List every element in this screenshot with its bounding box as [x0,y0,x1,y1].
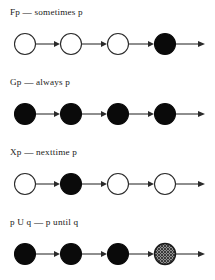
state-node [15,34,36,55]
state-node [61,174,82,195]
trace-svg-until [0,210,215,280]
state-node [108,34,129,55]
state-node [155,34,176,55]
state-node [155,104,176,125]
trace-row-nexttime: Xp — nexttime p [0,140,215,210]
state-node [61,104,82,125]
state-node [15,104,36,125]
state-node [108,174,129,195]
trace-row-sometimes: Fp — sometimes p [0,0,215,70]
trace-row-always: Gp — always p [0,70,215,140]
state-node [155,244,176,265]
trace-svg-sometimes [0,0,215,70]
state-node [155,174,176,195]
state-node [108,244,129,265]
state-node [15,244,36,265]
trace-row-until: p U q — p until q [0,210,215,280]
trace-svg-always [0,70,215,140]
temporal-logic-diagram: Fp — sometimes p Gp — always p [0,0,215,280]
state-node [15,174,36,195]
state-node [61,34,82,55]
state-node [61,244,82,265]
state-node [108,104,129,125]
trace-svg-nexttime [0,140,215,210]
